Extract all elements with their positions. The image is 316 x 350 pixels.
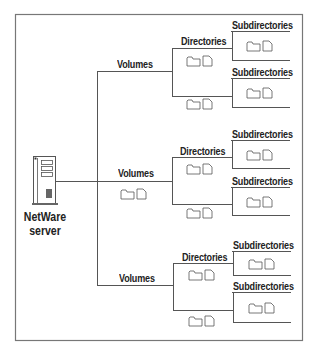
- subdirectories-label-1b: Subdirectories: [232, 66, 293, 78]
- volume-label-3: Volumes: [119, 272, 155, 284]
- server-label-line1: NetWare: [19, 210, 72, 224]
- server-label-line2: server: [19, 224, 72, 238]
- directories-label-1: Directories: [181, 35, 226, 47]
- subdirectories-label-2a: Subdirectories: [232, 128, 293, 140]
- directories-label-2: Directories: [180, 145, 225, 157]
- server-tower-icon: [32, 157, 58, 206]
- server-label: NetWare server: [19, 210, 72, 238]
- subdirectories-label-3b: Subdirectories: [233, 280, 294, 292]
- subdirectories-label-3a: Subdirectories: [233, 239, 294, 251]
- subdirectories-label-1a: Subdirectories: [232, 19, 293, 31]
- volume-label-2: Volumes: [118, 167, 154, 179]
- volume-label-1: Volumes: [117, 58, 153, 70]
- directories-label-3: Directories: [182, 251, 227, 263]
- subdirectories-label-2b: Subdirectories: [232, 175, 293, 187]
